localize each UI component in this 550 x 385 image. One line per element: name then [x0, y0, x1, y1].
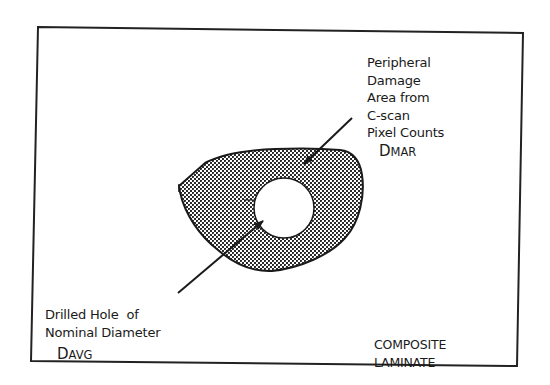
material-label-line: COMPOSITE	[374, 336, 446, 354]
dmar-symbol-main: D	[379, 142, 391, 160]
hole-label: Drilled Hole of Nominal Diameter	[45, 306, 160, 341]
davg-symbol-sub: AVG	[69, 348, 93, 362]
material-label-line: LAMINATE	[374, 354, 446, 372]
dmar-symbol-sub: MAR	[391, 145, 417, 159]
hole-label-line: Drilled Hole of	[45, 306, 160, 324]
dmar-symbol: DMAR	[379, 142, 416, 160]
damage-label-line: Peripheral	[367, 54, 444, 72]
material-label: COMPOSITE LAMINATE	[374, 336, 446, 371]
damage-label-line: Pixel Counts	[367, 124, 444, 142]
damage-label: Peripheral Damage Area from C-scan Pixel…	[367, 54, 444, 142]
damage-label-line: Area from	[367, 89, 444, 107]
hole-label-line: Nominal Diameter	[45, 324, 160, 342]
damage-label-line: C-scan	[367, 107, 444, 125]
davg-symbol: DAVG	[57, 345, 92, 363]
drilled-hole	[254, 178, 314, 238]
damage-label-line: Damage	[367, 72, 444, 90]
davg-symbol-main: D	[57, 345, 69, 363]
